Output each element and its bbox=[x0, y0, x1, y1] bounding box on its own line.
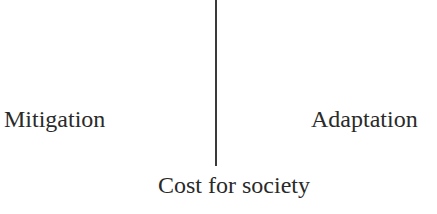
mitigation-label: Mitigation bbox=[4, 107, 105, 131]
adaptation-label: Adaptation bbox=[311, 107, 418, 131]
cost-for-society-label: Cost for society bbox=[158, 173, 310, 197]
vertical-divider-line bbox=[215, 0, 217, 166]
